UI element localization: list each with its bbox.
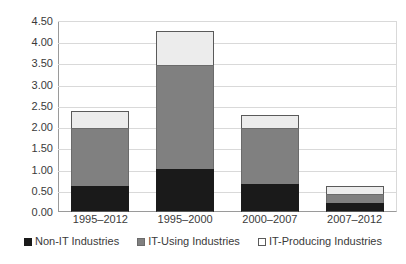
bar-slot <box>312 21 397 212</box>
bar-segment[interactable] <box>71 186 129 212</box>
bar-stack[interactable] <box>241 115 299 212</box>
chart-legend: Non-IT IndustriesIT-Using IndustriesIT-P… <box>0 236 406 247</box>
x-axis-tick-label: 2007–2012 <box>312 214 397 225</box>
y-axis-tick-labels: 0.000.501.001.502.002.503.003.504.004.50 <box>0 21 53 212</box>
y-axis-tick-label: 2.00 <box>3 122 53 133</box>
legend-swatch-icon <box>258 238 266 246</box>
bar-stack[interactable] <box>156 31 214 212</box>
x-axis-tick-label: 2000–2007 <box>228 214 313 225</box>
bar-segment[interactable] <box>241 184 299 212</box>
y-axis-tick-label: 4.00 <box>3 37 53 48</box>
y-axis-tick-label: 3.00 <box>3 79 53 90</box>
legend-item[interactable]: Non-IT Industries <box>24 236 119 247</box>
y-axis-tick-label: 1.50 <box>3 143 53 154</box>
bar-slot <box>143 21 228 212</box>
stacked-bar-chart: 0.000.501.001.502.002.503.003.504.004.50… <box>0 0 406 264</box>
x-axis-tick-label: 1995–2012 <box>58 214 143 225</box>
legend-swatch-icon <box>137 238 145 246</box>
bar-segment[interactable] <box>71 128 129 185</box>
x-axis-tick-label: 1995–2000 <box>143 214 228 225</box>
bar-segment[interactable] <box>241 128 299 183</box>
legend-label: IT-Using Industries <box>148 236 240 247</box>
bar-segment[interactable] <box>71 111 129 128</box>
bar-segment[interactable] <box>156 65 214 169</box>
legend-label: IT-Producing Industries <box>269 236 382 247</box>
bar-stack[interactable] <box>326 186 384 212</box>
bar-segment[interactable] <box>326 194 384 203</box>
y-axis-tick-label: 3.50 <box>3 58 53 69</box>
bar-segment[interactable] <box>156 169 214 212</box>
bar-segment[interactable] <box>326 203 384 212</box>
bar-segment[interactable] <box>241 115 299 128</box>
y-axis-tick-label: 4.50 <box>3 16 53 27</box>
y-axis-tick-label: 2.50 <box>3 100 53 111</box>
bar-stack[interactable] <box>71 111 129 212</box>
legend-swatch-icon <box>24 238 32 246</box>
bar-segment[interactable] <box>156 31 214 65</box>
legend-item[interactable]: IT-Using Industries <box>137 236 240 247</box>
legend-item[interactable]: IT-Producing Industries <box>258 236 382 247</box>
bar-segment[interactable] <box>326 186 384 194</box>
legend-label: Non-IT Industries <box>35 236 119 247</box>
y-axis-tick-label: 0.50 <box>3 185 53 196</box>
bar-slot <box>58 21 143 212</box>
y-axis-tick-label: 1.00 <box>3 164 53 175</box>
bar-slot <box>228 21 313 212</box>
y-axis-tick-label: 0.00 <box>3 207 53 218</box>
x-axis-tick-labels: 1995–20121995–20002000–20072007–2012 <box>58 214 397 225</box>
bars-layer <box>58 21 397 212</box>
